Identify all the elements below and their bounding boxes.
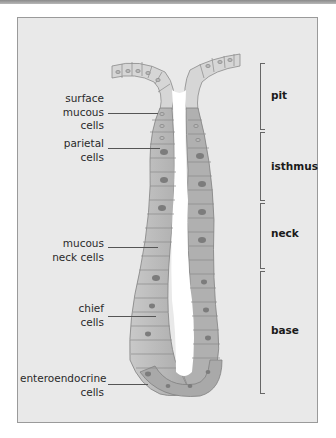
bracket-tick xyxy=(260,200,265,201)
label-parietal-cells: parietal cells xyxy=(40,137,104,164)
bracket-tick xyxy=(260,203,265,204)
bracket-tick xyxy=(260,63,265,64)
bracket-neck xyxy=(260,203,261,268)
leader-line-enteroendocrine xyxy=(108,384,148,385)
label-surface-mucous-cells: surface mucous cells xyxy=(40,92,104,133)
label-mucous-neck-cells: mucous neck cells xyxy=(30,237,104,264)
bracket-tick xyxy=(260,132,265,133)
bracket-tick xyxy=(260,393,265,394)
bracket-pit xyxy=(260,63,261,129)
bracket-tick xyxy=(260,129,265,130)
label-chief-cells: chief cells xyxy=(40,302,104,329)
region-label-pit: pit xyxy=(271,89,287,101)
region-label-base: base xyxy=(271,324,299,336)
region-label-neck: neck xyxy=(271,227,299,239)
leader-line-parietal xyxy=(108,148,160,149)
leader-line-chief xyxy=(108,316,156,317)
bracket-tick xyxy=(260,268,265,269)
bracket-base xyxy=(260,271,261,394)
label-enteroendocrine-cells: enteroendocrine cells xyxy=(20,372,104,399)
region-label-isthmus: isthmus xyxy=(271,160,318,172)
bracket-tick xyxy=(260,271,265,272)
leader-line-surface-mucous xyxy=(108,113,158,114)
bracket-isthmus xyxy=(260,132,261,200)
leader-line-mucous-neck xyxy=(108,247,158,248)
